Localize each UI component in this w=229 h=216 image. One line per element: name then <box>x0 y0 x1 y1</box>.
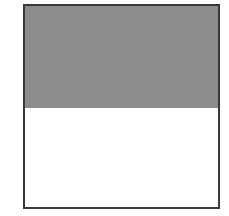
unshaded-region <box>25 108 218 207</box>
shaded-region <box>25 6 218 108</box>
fraction-square <box>23 4 220 209</box>
